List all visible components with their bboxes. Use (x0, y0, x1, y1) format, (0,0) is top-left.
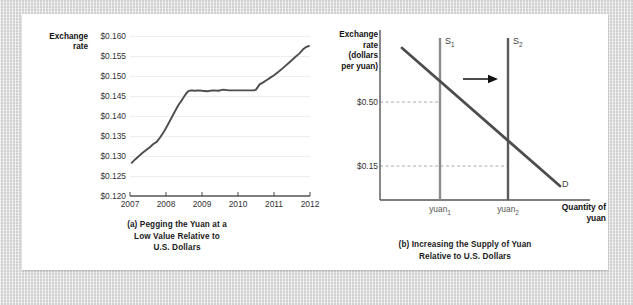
panel-b-x-axis-title-line1: Quantity of (534, 202, 606, 213)
panel-b-x-axis-title: Quantity of yuan (534, 202, 606, 223)
panel-b-shift-arrow-head (488, 75, 498, 83)
panel-b-x-axis-title-line2: yuan (534, 213, 606, 224)
panel-a-caption-line1: (a) Pegging the Yuan at a (32, 219, 322, 231)
panel-b-svg (322, 14, 608, 224)
panel-b-demand-curve (402, 48, 560, 186)
figure-panel: Exchange rate $0.120$0.125$0.130$0.135$0… (22, 14, 608, 270)
panel-a-caption: (a) Pegging the Yuan at a Low Value Rela… (32, 219, 322, 254)
panel-a-caption-line2: Low Value Relative to (32, 231, 322, 243)
panel-b-plot-area: $0.50$0.15yuan1yuan2S1S2D (322, 14, 608, 224)
panel-a-caption-line3: U.S. Dollars (32, 242, 322, 254)
panel-a-plot-area: $0.120$0.125$0.130$0.135$0.140$0.145$0.1… (32, 14, 322, 219)
panel-a-svg (32, 14, 322, 219)
panel-a-data-line (132, 46, 309, 163)
panel-b-caption-line2: Relative to U.S. Dollars (322, 251, 608, 263)
figure-panel-a: Exchange rate $0.120$0.125$0.130$0.135$0… (32, 14, 322, 270)
figure-panel-b: Exchange rate (dollars per yuan) $0.50$0… (322, 14, 608, 270)
panel-b-caption-line1: (b) Increasing the Supply of Yuan (322, 239, 608, 251)
panel-b-caption: (b) Increasing the Supply of Yuan Relati… (322, 239, 608, 262)
